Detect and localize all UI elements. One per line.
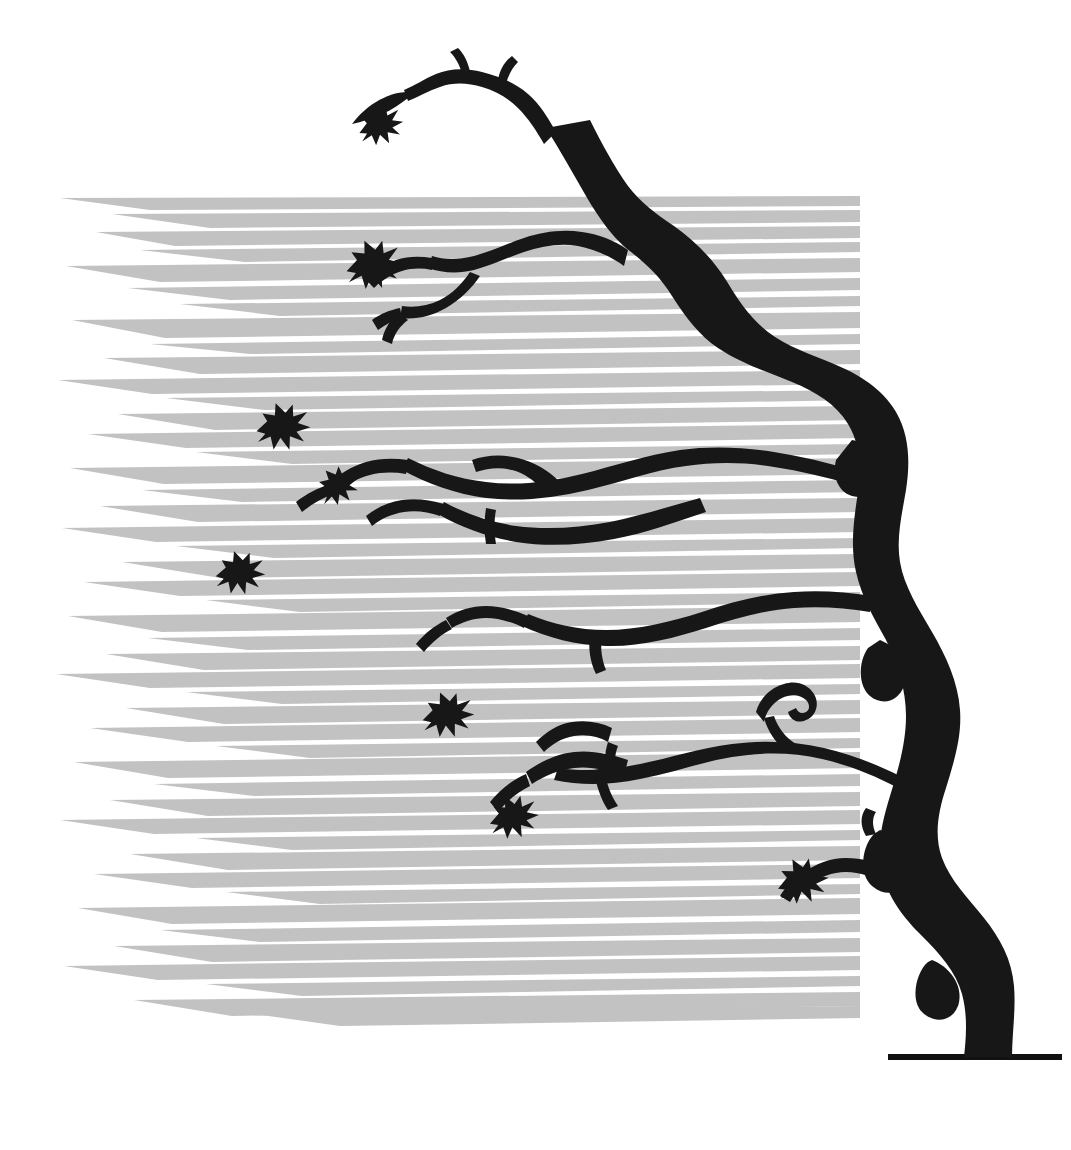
windswept-tree-illustration [0,0,1071,1150]
illustration-canvas: Windswept Tree Black silhouette of a win… [0,0,1071,1150]
